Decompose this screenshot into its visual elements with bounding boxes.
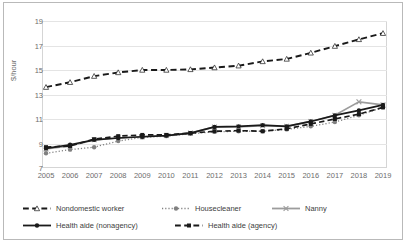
x-axis-tick-label: 2006 [62,171,79,180]
legend-label-health-aide-agency: Health aide (agency) [208,220,277,231]
data-point-marker [140,135,144,139]
data-point-marker [44,146,48,150]
x-axis-tick-label: 2010 [158,171,175,180]
legend-label-housecleaner: Housecleaner [195,203,241,214]
y-axis-tick-label: 13 [17,90,43,99]
data-point-marker [188,131,192,135]
y-axis-tick-label: 15 [17,66,43,75]
x-axis-tick-label: 2005 [38,171,55,180]
data-point-marker [333,113,337,117]
data-point-marker [309,119,313,123]
x-axis-tick-label: 2018 [351,171,368,180]
x-axis-tick-label: 2015 [278,171,295,180]
x-axis-tick-label: 2009 [134,171,151,180]
legend-swatch-housecleaner [161,203,191,214]
legend-swatch-nondomestic-worker [22,203,52,214]
legend-item-health-aide-agency[interactable]: Health aide (agency) [174,220,277,231]
x-axis-tick-label: 2008 [110,171,127,180]
x-axis-tick-label: 2016 [302,171,319,180]
data-point-marker [92,145,96,149]
data-point-marker [35,223,39,227]
data-point-marker [92,138,96,142]
series-line [46,33,383,87]
data-point-marker [187,224,191,228]
data-point-marker [357,112,361,116]
data-point-marker [68,143,72,147]
x-axis-tick-label: 2011 [182,171,198,180]
plot-area: 791113151719 200520062007200820092010201… [42,21,387,168]
legend-label-health-aide-nonagency: Health aide (nonagency) [56,220,138,231]
data-point-marker [237,129,241,133]
legend-label-nanny: Nanny [305,203,327,214]
data-point-marker [285,124,289,128]
data-point-marker [174,206,178,210]
chart-legend: Nondomestic worker Housecleaner Nanny He… [22,201,390,235]
legend-row-2: Health aide (nonagency) Health aide (age… [22,218,390,235]
data-point-marker [212,125,216,129]
x-axis-tick-label: 2007 [86,171,103,180]
data-point-marker [213,129,217,133]
x-axis-tick-label: 2013 [230,171,247,180]
data-point-marker [68,147,72,151]
data-point-marker [261,129,265,133]
y-axis-tick-label: 9 [17,139,43,148]
x-axis-tick-label: 2014 [254,171,271,180]
x-axis-tick-label: 2019 [375,171,392,180]
data-point-marker [357,108,361,112]
legend-item-nanny[interactable]: Nanny [271,203,327,214]
data-point-marker [164,133,168,137]
y-axis-tick-label: 19 [17,17,43,26]
x-axis-tick-label: 2012 [206,171,223,180]
data-point-marker [381,103,385,107]
data-point-marker [333,117,337,121]
y-axis-tick-label: 11 [17,115,43,124]
legend-row-1: Nondomestic worker Housecleaner Nanny [22,201,390,218]
series-plot [42,21,387,168]
series-health-aide-nonagency [44,103,385,151]
legend-item-health-aide-nonagency[interactable]: Health aide (nonagency) [22,220,138,231]
legend-item-housecleaner[interactable]: Housecleaner [161,203,241,214]
data-point-marker [116,136,120,140]
chart-container: $/hour 791113151719 20052006200720082009… [3,2,403,240]
data-point-marker [260,123,264,127]
legend-item-nondomestic-worker[interactable]: Nondomestic worker [22,203,124,214]
x-axis-tick-label: 2017 [327,171,344,180]
legend-swatch-health-aide-nonagency [22,220,52,231]
legend-label-nondomestic-worker: Nondomestic worker [56,203,124,214]
legend-swatch-health-aide-agency [174,220,204,231]
y-axis-tick-label: 17 [17,41,43,50]
data-point-marker [44,151,48,155]
data-point-marker [236,124,240,128]
legend-swatch-nanny [271,203,301,214]
series-nondomestic-worker [43,31,385,90]
